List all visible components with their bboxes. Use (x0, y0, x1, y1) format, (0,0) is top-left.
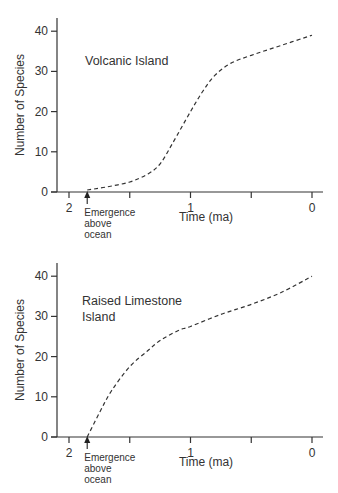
y-tick-label: 20 (35, 350, 49, 364)
chart-panel-1: 010203040210Time (ma)Number of SpeciesVo… (13, 18, 323, 240)
x-tick-label: 0 (309, 201, 316, 215)
x-tick-label: 2 (66, 201, 73, 215)
x-axis-label: Time (ma) (179, 455, 233, 469)
y-tick-label: 0 (41, 430, 48, 444)
y-axis-label: Number of Species (13, 299, 27, 401)
emergence-annotation: ocean (84, 229, 111, 240)
x-tick-label: 0 (309, 446, 316, 460)
y-tick-label: 30 (35, 309, 49, 323)
y-tick-label: 0 (41, 185, 48, 199)
y-tick-label: 40 (35, 24, 49, 38)
y-tick-label: 10 (35, 145, 49, 159)
x-tick-label: 2 (66, 446, 73, 460)
y-tick-label: 30 (35, 64, 49, 78)
species-accumulation-charts: 010203040210Time (ma)Number of SpeciesVo… (0, 0, 338, 493)
chart-panel-2: 010203040210Time (ma)Number of SpeciesRa… (13, 263, 323, 485)
emergence-annotation: Emergence (84, 207, 136, 218)
y-tick-label: 20 (35, 105, 49, 119)
y-axis-label: Number of Species (13, 54, 27, 156)
panel-title: Volcanic Island (85, 54, 168, 68)
emergence-annotation: above (84, 463, 112, 474)
emergence-annotation: ocean (84, 474, 111, 485)
panel-title: Raised Limestone (82, 294, 182, 308)
y-tick-label: 10 (35, 390, 49, 404)
emergence-annotation: above (84, 218, 112, 229)
y-tick-label: 40 (35, 269, 49, 283)
emergence-annotation: Emergence (84, 452, 136, 463)
panel-title: Island (82, 310, 115, 324)
x-axis-label: Time (ma) (179, 210, 233, 224)
